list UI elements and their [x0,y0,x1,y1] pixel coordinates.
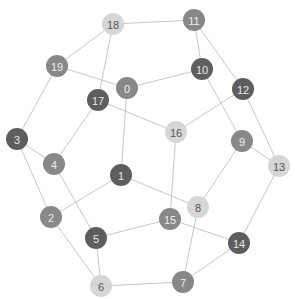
node-3[interactable]: 3 [6,128,28,150]
edge-5-15 [96,219,170,238]
node-label: 16 [170,127,182,139]
node-12[interactable]: 12 [232,78,254,100]
edge-12-13 [243,89,279,166]
node-label: 13 [273,161,285,173]
node-6[interactable]: 6 [90,275,112,297]
edge-13-14 [239,166,279,243]
node-label: 4 [51,159,57,171]
edge-17-16 [98,100,176,132]
edge-6-7 [101,282,183,286]
edge-4-5 [54,164,96,238]
node-label: 11 [188,15,199,27]
edge-19-3 [17,66,57,139]
node-label: 3 [14,134,20,146]
edge-18-11 [113,20,194,24]
node-8[interactable]: 8 [187,196,209,218]
node-11[interactable]: 11 [183,9,205,31]
node-label: 2 [48,212,54,224]
node-13[interactable]: 13 [268,155,290,177]
node-label: 14 [233,238,245,250]
node-5[interactable]: 5 [85,227,107,249]
edge-0-10 [127,69,202,88]
node-label: 6 [98,281,104,293]
edge-1-2 [51,175,121,217]
node-14[interactable]: 14 [228,232,250,254]
node-label: 17 [92,95,104,107]
edge-1-8 [121,175,198,207]
edge-8-9 [198,141,242,207]
node-label: 8 [195,202,201,214]
edge-17-4 [54,100,98,164]
node-7[interactable]: 7 [172,271,194,293]
node-layer: 012345678910111213141516171819 [6,9,290,297]
node-label: 19 [51,61,63,73]
node-0[interactable]: 0 [116,77,138,99]
node-19[interactable]: 19 [46,55,68,77]
node-label: 0 [124,83,130,95]
edge-18-17 [98,24,113,100]
node-4[interactable]: 4 [43,153,65,175]
node-2[interactable]: 2 [40,206,62,228]
graph-canvas: 012345678910111213141516171819 [0,0,295,299]
node-label: 7 [180,277,186,289]
node-9[interactable]: 9 [231,130,253,152]
edge-19-0 [57,66,127,88]
edge-15-16 [170,132,176,219]
node-10[interactable]: 10 [191,58,213,80]
edge-7-8 [183,207,198,282]
node-15[interactable]: 15 [159,208,181,230]
node-label: 5 [93,233,99,245]
node-17[interactable]: 17 [87,89,109,111]
node-label: 10 [196,64,208,76]
node-label: 9 [239,136,245,148]
node-16[interactable]: 16 [165,121,187,143]
node-1[interactable]: 1 [110,164,132,186]
node-label: 1 [118,170,124,182]
node-label: 12 [237,84,249,96]
node-label: 18 [107,19,119,31]
node-18[interactable]: 18 [102,13,124,35]
edge-0-1 [121,88,127,175]
node-label: 15 [164,214,176,226]
